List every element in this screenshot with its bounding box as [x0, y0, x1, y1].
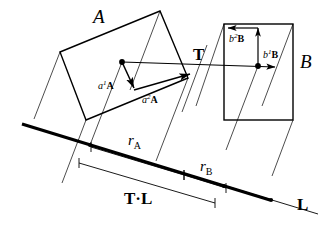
guide-line-a-topleft: [34, 52, 60, 119]
projection-label-tdotl: T·L: [124, 190, 152, 207]
figure-canvas: [0, 0, 325, 232]
vector-a2-label: a2A: [142, 94, 158, 105]
guide-line-a-center: [90, 62, 122, 145]
guide-line-a-topright: [130, 11, 160, 90]
guide-line-a-bottomleft: [62, 120, 86, 183]
figure-container: A B T L T·L rA rB a1A a2A b2B b1B: [0, 0, 325, 232]
projection-dot-l-end: [269, 198, 273, 202]
radius-a-subscript: A: [134, 140, 141, 151]
vector-a1-symbol: A: [107, 80, 114, 91]
vector-b1-label: b1B: [263, 49, 278, 60]
box-a-label: A: [93, 7, 105, 26]
guide-line-b-bottomright: [272, 120, 293, 176]
radius-b-label: rB: [200, 159, 213, 177]
projection-guide-lines: [34, 11, 293, 183]
radius-a-label: rA: [128, 133, 141, 151]
projection-dot-b-center: [222, 184, 226, 188]
vector-a1-a: [122, 62, 134, 88]
center-point-b: [255, 63, 261, 69]
vector-b1-symbol: B: [272, 49, 279, 60]
translation-label-t: T: [193, 46, 204, 63]
guide-line-a-bottomright: [156, 78, 188, 161]
vector-b2-label: b2B: [229, 33, 244, 44]
vector-a1-label: a1A: [98, 80, 114, 91]
guide-line-b-topright: [262, 24, 293, 106]
vector-b2-symbol: B: [238, 33, 245, 44]
vector-a2-symbol: A: [151, 94, 158, 105]
center-point-a: [119, 59, 125, 65]
axis-line-label-l: L: [297, 196, 308, 213]
vector-a2-a: [134, 74, 190, 90]
radius-b-subscript: B: [206, 166, 213, 177]
projection-dot-a-center: [88, 143, 92, 147]
guide-line-b-center: [226, 66, 258, 150]
box-b-label: B: [300, 52, 312, 71]
